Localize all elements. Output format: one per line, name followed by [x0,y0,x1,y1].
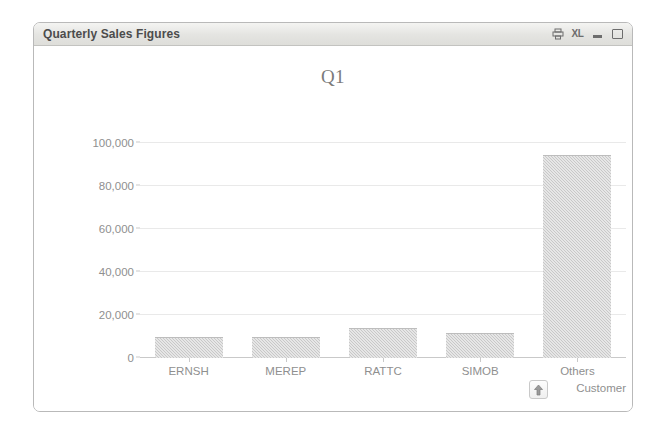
x-tick-mark [286,358,287,362]
bar[interactable] [155,337,223,358]
screenshot-root: Quarterly Sales Figures XL [0,0,667,438]
x-axis-tick-label: MEREP [237,365,334,377]
plot-area[interactable]: 020,00040,00060,00080,000100,000 ERNSHME… [140,143,626,358]
export-excel-button[interactable]: XL [571,28,584,41]
x-axis-tick-label: ERNSH [140,365,237,377]
y-axis-tick-label: 60,000 [99,223,134,235]
x-axis-label: Customer [576,382,626,394]
bar-series [140,143,626,358]
x-tick-mark [189,358,190,362]
up-arrow-icon [533,384,544,396]
bar-slot[interactable] [349,143,417,358]
maximize-icon [612,29,623,39]
window-titlebar[interactable]: Quarterly Sales Figures XL [34,23,632,46]
minimize-button[interactable] [591,28,604,41]
chart-title: Q1 [34,66,632,88]
bar-slot[interactable] [446,143,514,358]
chart-client-area: Q1 020,00040,00060,00080,000100,000 ERNS… [34,46,632,411]
bar-slot[interactable] [543,143,611,358]
y-axis-tick-label: 20,000 [99,309,134,321]
bar-slot[interactable] [252,143,320,358]
x-axis-tick-label: SIMOB [432,365,529,377]
bar[interactable] [349,328,417,358]
x-tick-mark [577,358,578,362]
minimize-icon [593,35,602,38]
window-title: Quarterly Sales Figures [43,28,180,40]
y-axis-tick-label: 80,000 [99,180,134,192]
bar[interactable] [252,337,320,358]
drill-up-button[interactable] [529,380,548,399]
print-icon [552,28,564,40]
x-axis-tick-label: Others [529,365,626,377]
bar[interactable] [543,155,611,358]
bar[interactable] [446,333,514,358]
y-axis-tick-label: 100,000 [92,137,134,149]
print-button[interactable] [551,28,564,41]
x-tick-mark [383,358,384,362]
y-axis-tick-label: 40,000 [99,266,134,278]
x-axis-tick-label: RATTC [334,365,431,377]
chart-window: Quarterly Sales Figures XL [33,22,633,412]
x-tick-mark [480,358,481,362]
bar-slot[interactable] [155,143,223,358]
export-excel-icon: XL [572,29,584,39]
y-axis-tick-label: 0 [128,352,134,364]
window-controls: XL [551,28,626,41]
maximize-button[interactable] [611,28,624,41]
